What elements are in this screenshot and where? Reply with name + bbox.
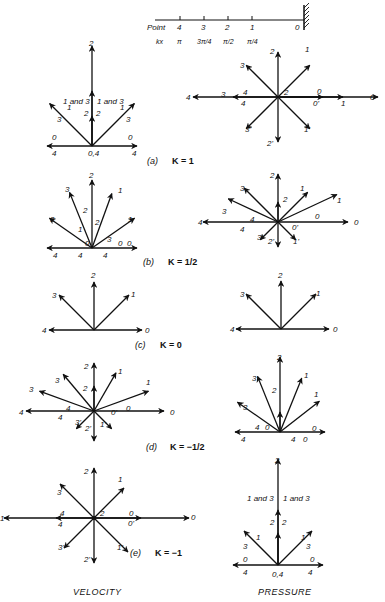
vector-label: 1 and 3	[247, 494, 274, 503]
vector-label: 4	[132, 149, 137, 158]
point-1: 1	[250, 23, 254, 32]
vector-label: 0'	[313, 99, 319, 108]
header-scale: Point 4 3 2 1 0 kx π 3π/4 π/2 π/4	[147, 3, 309, 45]
vector-label: 1	[301, 533, 305, 542]
vector-label: 0	[145, 326, 150, 335]
vector-label: 3	[50, 215, 55, 224]
pressure-arrow-3	[244, 531, 278, 565]
kx-1: π/4	[247, 38, 258, 45]
vector-label: 0	[118, 239, 123, 248]
pressure-arrow-3	[246, 294, 281, 329]
vector-label: 3	[243, 542, 248, 551]
vector-label: 1	[118, 367, 122, 376]
vector-label: 0	[126, 404, 131, 413]
caption-d-k: K = −1/2	[170, 442, 205, 452]
vector-label: 0	[317, 87, 322, 96]
footer-pressure: PRESSURE	[258, 587, 312, 597]
vector-label: 3	[57, 488, 62, 497]
vector-label: 2'	[84, 424, 91, 433]
vector-label: 1	[146, 378, 150, 387]
vector-label: 1'	[117, 543, 123, 552]
vector-label: 3'	[245, 125, 251, 134]
vector-label: 2	[277, 271, 283, 280]
vector-label: 1 and 3	[283, 494, 310, 503]
vector-label: 0	[52, 133, 57, 142]
vector-label: 4	[198, 218, 203, 227]
vector-label: 4	[243, 568, 248, 577]
vector-label: 0	[129, 509, 134, 518]
vector-label: 3	[252, 374, 257, 383]
vector-label: 4	[241, 99, 246, 108]
vector-label: 3	[57, 115, 62, 124]
vector-label: 0,4	[272, 570, 284, 579]
vector-label: 0'	[292, 223, 298, 232]
velocity-arrow	[94, 373, 116, 411]
velocity-arrow-1	[94, 488, 124, 518]
vector-label: 4	[291, 435, 296, 444]
vector-label: 0	[310, 555, 315, 564]
vector-label: 2	[88, 171, 94, 180]
vector-label: 3	[243, 403, 248, 412]
vector-label: 1'	[304, 125, 310, 134]
caption-e-letter: (e)	[130, 548, 141, 558]
vector-label: 0	[170, 408, 175, 417]
panel-d-pressure: 231231404004	[235, 353, 325, 444]
panel-a-velocity: 21 and 31 and 322131304040,4	[47, 39, 137, 158]
vector-label: 1	[304, 371, 308, 380]
vector-label: 2	[94, 218, 100, 227]
vector-label: 0'	[128, 519, 134, 528]
point-label: Point	[147, 23, 166, 32]
vector-label: 0	[243, 555, 248, 564]
vector-label: 0	[333, 325, 338, 334]
vector-label: 2	[269, 47, 275, 56]
wave-vector-diagram: Point 4 3 2 1 0 kx π 3π/4 π/2 π/4 21 and…	[0, 0, 385, 602]
vector-label: 4	[60, 509, 65, 518]
vector-label: 0'	[111, 408, 117, 417]
vector-label: 2	[269, 171, 275, 180]
velocity-arrow-3-prime	[64, 518, 94, 548]
vector-label: 4	[241, 435, 246, 444]
panel-a-pressure: 2134344200'103'1'2'	[186, 45, 378, 148]
vector-label: 3'	[257, 233, 263, 242]
vector-label: 2	[90, 271, 96, 280]
vector-label: 1	[316, 289, 320, 298]
vector-label: 2'	[267, 237, 274, 246]
vector-label: 4	[103, 251, 108, 260]
point-0: 0	[295, 23, 300, 32]
vector-label: 1	[118, 475, 122, 484]
vector-label: 0	[312, 424, 317, 433]
vector-label: 1	[128, 215, 132, 224]
vector-label: 2'	[266, 139, 273, 148]
vector-label: 3	[240, 290, 245, 299]
kx-3: 3π/4	[197, 38, 212, 45]
vector-label: 1	[131, 290, 135, 299]
vector-label: 4	[308, 568, 313, 577]
velocity-arrow-3	[60, 484, 94, 518]
vector-label: 2	[271, 386, 277, 395]
vector-label: 3'	[58, 543, 64, 552]
vector-label: 2	[88, 39, 94, 48]
caption-d-letter: (d)	[146, 442, 157, 452]
vector-label: 4	[230, 325, 235, 334]
vector-label: 3	[240, 61, 245, 70]
vector-label: 3	[222, 207, 227, 216]
vector-label: 3	[107, 235, 112, 244]
caption-a-k: K = 1	[172, 156, 194, 166]
vector-label: 2	[83, 109, 89, 118]
vector-label: 4	[58, 520, 63, 529]
vector-label: 1	[78, 225, 82, 234]
vector-label: 2	[281, 518, 287, 527]
vector-label: 2	[82, 384, 88, 393]
point-3: 3	[201, 23, 206, 32]
vector-label: 4	[255, 423, 260, 432]
vector-label: 3	[306, 542, 311, 551]
vector-label: 2	[276, 353, 282, 362]
vector-label: 0	[315, 212, 320, 221]
vector-label: 0	[191, 513, 196, 522]
vector-label: 1	[305, 45, 309, 54]
vector-label: 4	[53, 251, 58, 260]
point-4: 4	[177, 23, 182, 32]
velocity-arrow-1	[94, 295, 129, 330]
vector-label: 0	[354, 218, 359, 227]
caption-e-k: K = −1	[155, 548, 182, 558]
